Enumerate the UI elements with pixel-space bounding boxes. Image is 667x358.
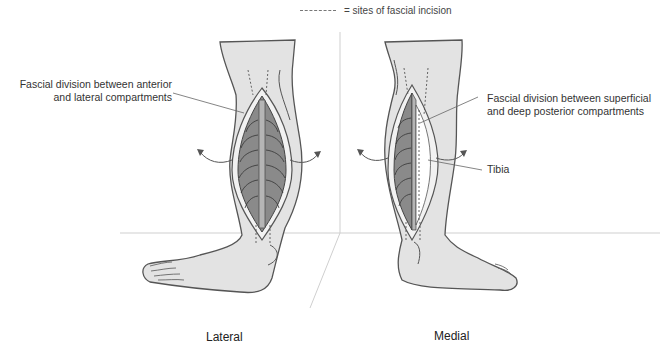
legend: = sites of fascial incision bbox=[300, 5, 452, 16]
tibia bbox=[412, 93, 416, 230]
label-line-1: Fascial division between superficial bbox=[487, 92, 667, 105]
label-anterior-lateral-division: Fascial division between anterior and la… bbox=[14, 78, 172, 104]
fasciotomy-diagram bbox=[0, 0, 667, 358]
label-line-1: Fascial division between anterior bbox=[14, 78, 172, 91]
label-line-1: Tibia bbox=[487, 163, 509, 176]
label-line-2: and deep posterior compartments bbox=[487, 105, 667, 118]
caption-medial: Medial bbox=[434, 329, 469, 343]
dotted-line-symbol-icon bbox=[300, 10, 336, 11]
label-line-2: and lateral compartments bbox=[14, 91, 172, 104]
label-tibia: Tibia bbox=[487, 163, 509, 176]
legend-text: = sites of fascial incision bbox=[344, 5, 452, 16]
label-superficial-deep-posterior-division: Fascial division between superficial and… bbox=[487, 92, 667, 118]
caption-lateral: Lateral bbox=[206, 330, 243, 344]
